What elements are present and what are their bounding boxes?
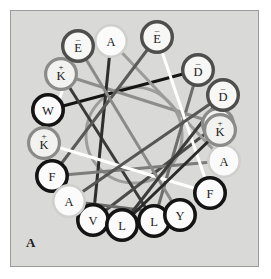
residue-letter: L (150, 215, 158, 229)
residue-charge-sign: + (41, 131, 46, 141)
helical-wheel-diagram: WD–LK+K+VAAFE–FK+E–YAD–LK+ (0, 0, 271, 279)
residue-charge-sign: – (220, 83, 226, 93)
residue-letter: F (207, 187, 214, 201)
panel-label: A (26, 236, 36, 249)
residue-node-d-2: D– (183, 55, 214, 86)
residue-node-l-17: L (107, 210, 137, 240)
residue-charge-sign: – (154, 25, 160, 35)
residue-letter: F (49, 170, 56, 184)
residue-letter: A (64, 195, 73, 209)
residue-charge-sign: – (75, 34, 81, 44)
residue-node-y-14: Y (165, 200, 195, 230)
residue-letter: V (88, 214, 97, 228)
connector-line (78, 46, 180, 215)
residue-charge-sign: + (58, 62, 63, 72)
connector-line (52, 161, 224, 176)
residue-node-a-7: A (95, 25, 126, 56)
residue-node-e-13: E– (63, 31, 94, 62)
residue-node-d-16: D– (208, 80, 239, 111)
helical-wheel-figure: WD–LK+K+VAAFE–FK+E–YAD–LK+ A (0, 0, 271, 279)
residue-letter: A (219, 155, 228, 169)
residue-node-k-12: K+ (29, 128, 60, 159)
residue-node-e-10: E– (142, 22, 173, 53)
residue-letter: W (42, 104, 54, 118)
residue-node-k-4: K+ (46, 59, 77, 90)
residue-node-f-11: F (195, 178, 225, 208)
residue-node-w-1: W (33, 95, 63, 125)
residue-letter: A (106, 35, 115, 49)
residue-charge-sign: – (195, 58, 201, 68)
residue-node-k-18: K+ (205, 115, 236, 146)
residue-node-a-15: A (53, 185, 84, 216)
residue-letter: Y (175, 209, 184, 223)
residue-letter: L (118, 219, 126, 233)
residue-charge-sign: + (217, 118, 222, 128)
residue-node-a-8: A (208, 145, 239, 176)
